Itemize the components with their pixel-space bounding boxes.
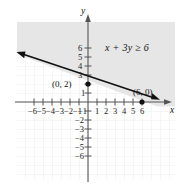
coordinate-plane (0, 0, 186, 187)
xtick-label-3: 3 (113, 107, 117, 116)
point-label-6-0: (6, 0) (133, 88, 153, 97)
xtick-label-6: 6 (140, 107, 144, 116)
inequality-annotation: x + 3y ≥ 6 (105, 43, 149, 53)
point-label-0-2: (0, 2) (52, 80, 72, 89)
ytick-label-1: 1 (81, 89, 85, 98)
y-axis-arrow (85, 14, 91, 22)
point-0-2 (85, 81, 90, 86)
xtick-label-neg2: −2 (64, 107, 73, 116)
y-axis-label: y (81, 7, 85, 17)
x-axis-label: x (170, 106, 174, 116)
graph-figure: −6 −5 −4 −3 −2 −1 1 2 3 4 5 6 6 5 4 3 1 … (0, 0, 186, 187)
xtick-label-neg3: −3 (55, 107, 64, 116)
xtick-label-1: 1 (95, 107, 99, 116)
xtick-label-4: 4 (122, 107, 126, 116)
xtick-label-neg6: −6 (28, 107, 37, 116)
xtick-label-5: 5 (131, 107, 135, 116)
xtick-label-2: 2 (104, 107, 108, 116)
xtick-label-neg4: −4 (46, 107, 55, 116)
ytick-label-3: 3 (78, 71, 82, 80)
xtick-label-neg5: −5 (37, 107, 46, 116)
ytick-label-neg6: −6 (75, 152, 84, 161)
point-6-0 (139, 99, 144, 104)
